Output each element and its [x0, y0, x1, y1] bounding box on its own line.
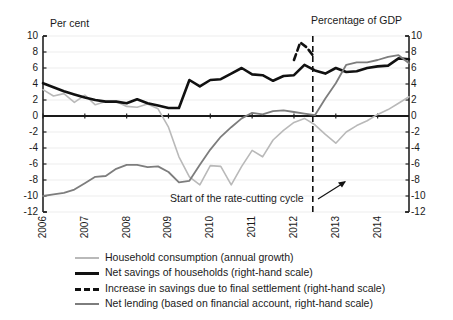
y-tick-left-6: 6 [32, 63, 38, 73]
y-tick-left-2: 2 [32, 95, 38, 105]
x-tick-2006: 2006 [38, 216, 48, 238]
series-line-1 [43, 58, 409, 108]
y-tick-left-8: 8 [32, 47, 38, 57]
y-tick-left--4: -4 [29, 143, 38, 153]
legend-label: Net savings of households (right-hand sc… [105, 266, 313, 278]
y-tick-right--2: -2 [411, 127, 420, 137]
y-tick-left--8: -8 [29, 175, 38, 185]
y-tick-right-2: 2 [411, 95, 417, 105]
y-tick-left-4: 4 [32, 79, 38, 89]
legend-label: Net lending (based on financial account,… [105, 297, 373, 309]
y-tick-right--12: -12 [411, 207, 425, 217]
x-tick-2012: 2012 [289, 216, 299, 238]
legend-item-0[interactable]: Household consumption (annual growth) [75, 249, 445, 265]
legend-item-1[interactable]: Net savings of households (right-hand sc… [75, 265, 445, 281]
legend-swatch-icon [75, 252, 99, 262]
y-tick-right-4: 4 [411, 79, 417, 89]
chart-figure: Per cent Percentage of GDP 1086420-2-4-6… [0, 0, 453, 320]
x-tick-2007: 2007 [80, 216, 90, 238]
series-line-0 [43, 90, 409, 185]
y-tick-left--6: -6 [29, 159, 38, 169]
y-tick-right-0: 0 [411, 111, 417, 121]
x-tick-2009: 2009 [163, 216, 173, 238]
legend-item-3[interactable]: Net lending (based on financial account,… [75, 296, 445, 312]
legend-swatch-icon [75, 267, 99, 277]
x-tick-2010: 2010 [205, 216, 215, 238]
legend-swatch-icon [75, 283, 99, 293]
y-tick-right--4: -4 [411, 143, 420, 153]
x-tick-2013: 2013 [331, 216, 341, 238]
x-tick-2014: 2014 [373, 216, 383, 238]
y-tick-right--10: -10 [411, 191, 425, 201]
legend-label: Increase in savings due to final settlem… [105, 282, 385, 294]
x-tick-2008: 2008 [122, 216, 132, 238]
legend-label: Household consumption (annual growth) [105, 251, 294, 263]
x-tick-2011: 2011 [247, 216, 257, 238]
rate-cutting-annotation: Start of the rate-cutting cycle [170, 192, 304, 204]
y-tick-left--2: -2 [29, 127, 38, 137]
y-tick-left--12: -12 [24, 207, 38, 217]
chart-legend: Household consumption (annual growth)Net… [75, 249, 445, 311]
y-tick-right-6: 6 [411, 63, 417, 73]
y-tick-left--10: -10 [24, 191, 38, 201]
legend-swatch-icon [75, 298, 99, 308]
y-tick-right-10: 10 [411, 31, 422, 41]
legend-item-2[interactable]: Increase in savings due to final settlem… [75, 280, 445, 296]
series-line-2 [294, 42, 313, 60]
y-tick-right--6: -6 [411, 159, 420, 169]
y-tick-left-10: 10 [27, 31, 38, 41]
y-tick-left-0: 0 [32, 111, 38, 121]
y-tick-right--8: -8 [411, 175, 420, 185]
y-tick-right-8: 8 [411, 47, 417, 57]
